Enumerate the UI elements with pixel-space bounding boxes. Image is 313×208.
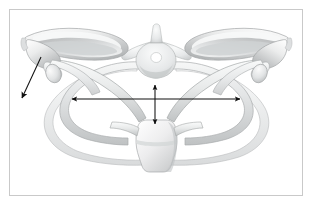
vertebral-foramen	[151, 53, 162, 63]
sternum	[136, 120, 177, 172]
right-sternoclavicular-joint	[174, 122, 203, 136]
anatomy-illustration	[0, 0, 313, 208]
scapular-direction-arrow	[22, 57, 41, 98]
left-sternoclavicular-joint	[110, 122, 139, 136]
figure-root: Grayscale medical illustration showing a…	[0, 0, 313, 208]
